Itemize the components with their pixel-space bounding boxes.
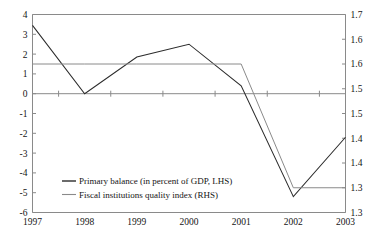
svg-text:1.6: 1.6 [351, 59, 363, 69]
chart-container: 43210-1-2-3-4-5-6 1.71.61.61.51.51.41.41… [0, 0, 378, 234]
svg-text:1.4: 1.4 [351, 158, 363, 168]
svg-text:1.5: 1.5 [351, 109, 363, 119]
svg-text:-1: -1 [20, 109, 28, 119]
legend-label-1: Fiscal institutions quality index (RHS) [79, 190, 218, 200]
svg-text:-2: -2 [20, 129, 28, 139]
svg-text:2001: 2001 [232, 217, 251, 227]
svg-text:-5: -5 [20, 188, 28, 198]
svg-text:3: 3 [23, 30, 28, 40]
svg-text:1: 1 [23, 69, 28, 79]
svg-text:0: 0 [23, 89, 28, 99]
svg-text:1.6: 1.6 [351, 35, 363, 45]
svg-text:1.5: 1.5 [351, 84, 363, 94]
svg-text:2000: 2000 [180, 217, 199, 227]
svg-text:-3: -3 [20, 149, 28, 159]
svg-text:2003: 2003 [336, 217, 355, 227]
svg-text:1999: 1999 [127, 217, 146, 227]
svg-text:2002: 2002 [284, 217, 303, 227]
legend-label-0: Primary balance (in percent of GDP, LHS) [79, 176, 232, 186]
svg-text:1.3: 1.3 [351, 183, 363, 193]
line-chart: 43210-1-2-3-4-5-6 1.71.61.61.51.51.41.41… [0, 0, 378, 234]
svg-text:1.4: 1.4 [351, 134, 363, 144]
svg-text:1.7: 1.7 [351, 10, 363, 20]
svg-text:1997: 1997 [23, 217, 42, 227]
svg-text:1998: 1998 [75, 217, 94, 227]
right-axis-tick-labels: 1.71.61.61.51.51.41.41.31.3 [351, 10, 363, 218]
svg-text:2: 2 [23, 50, 28, 60]
svg-text:-4: -4 [20, 168, 28, 178]
svg-text:4: 4 [23, 10, 28, 20]
